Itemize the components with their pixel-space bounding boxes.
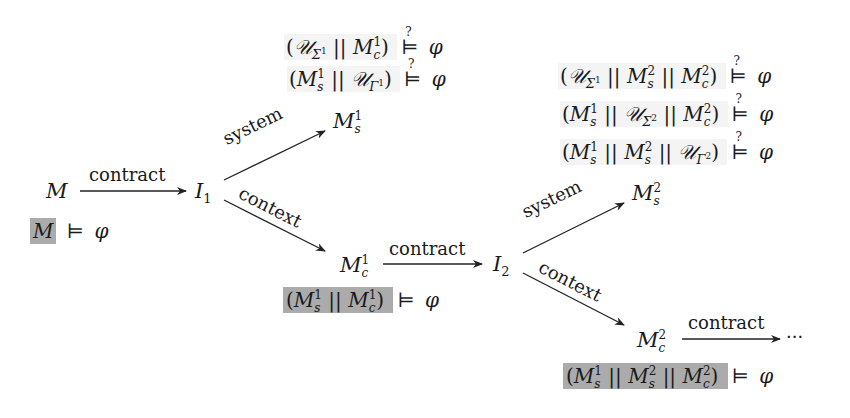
node-M: M [46,181,68,202]
sub-c: c [702,78,710,91]
M: M [294,288,314,312]
node-Mc1-sub: c [362,267,370,280]
node-Ms2-sup: 2 [654,182,662,195]
node-Mc2-base: M [637,328,659,352]
sigma: Σ [586,76,595,91]
f1b-box: (M1s || 𝒰Γ1) [287,66,400,92]
q-models-symbol: ?⊨ [404,69,421,89]
formula-f1b: (M1s || 𝒰Γ1) ?⊨ φ [287,68,446,93]
sup-1: 1 [317,68,325,81]
sup-2: 2 [651,113,657,123]
question-mark: ? [736,93,742,105]
M: M [628,364,648,388]
q-models-symbol: ?⊨ [731,142,748,162]
M: M [683,102,703,126]
node-I1: I1 [195,181,212,205]
rparen: ) [711,102,719,126]
sup-1: 1 [373,36,381,49]
node-Mc1-base: M [340,253,362,277]
parallel-op: || [663,102,676,126]
sup-2: 2 [645,141,653,154]
question-mark: ? [735,131,741,143]
sup-1: 1 [314,289,322,302]
node-Ms2: M2s [632,182,661,207]
phi: φ [759,364,773,388]
node-Ms2-base: M [632,181,654,205]
parallel-op: || [663,364,676,388]
parallel-op: || [604,140,617,164]
sub-s: s [317,81,325,94]
parallel-op: || [607,64,620,88]
highlight-M: M [30,218,56,244]
models: ⊨ [732,366,749,386]
node-I2-sub: 2 [501,264,509,279]
sigma: Σ [312,47,321,62]
node-Mc1: M1c [340,254,369,279]
sup-2: 2 [703,365,711,378]
gamma: Γ [696,152,705,167]
sup-2: 2 [647,65,655,78]
node-Mc2-sup: 2 [659,329,667,342]
parallel-op: || [331,67,344,91]
sup-2: 2 [702,65,710,78]
rparen: ) [709,64,717,88]
q-models-symbol: ?⊨ [732,104,749,124]
sup-1: 1 [595,75,601,85]
sup-1: 1 [594,365,602,378]
sub-s: s [649,378,657,391]
lparen: ( [286,35,294,59]
question-mark: ? [408,58,414,70]
M: M [627,64,647,88]
edge-label-contract-3: contract [688,314,764,332]
lparen: ( [562,102,570,126]
lparen: ( [562,140,570,164]
phi: φ [429,35,443,59]
parallel-op: || [328,288,341,312]
rparen: ) [384,67,392,91]
parallel-op: || [608,364,621,388]
node-Mc1-sup: 1 [362,254,370,267]
node-Ms1-sup: 1 [355,110,363,123]
node-Mc2: M2c [637,329,666,354]
sub-s: s [314,302,322,315]
M: M [624,140,644,164]
q-models-symbol: ?⊨ [401,37,418,57]
M: M [297,67,317,91]
sub-s: s [594,378,602,391]
rparen: ) [711,140,719,164]
formula-f2d: (M1s || M2s || M2c) ⊨ φ [563,365,773,390]
parallel-op: || [659,140,672,164]
node-Ms1: M1s [333,110,362,135]
formula-M-models-phi: M ⊨ φ [30,221,108,241]
lparen: ( [566,364,574,388]
M: M [570,102,590,126]
sigma: Σ [642,114,651,129]
phi: φ [432,67,446,91]
formula-f1c: (M1s || M1c) ⊨ φ [283,289,439,314]
lparen: ( [289,67,297,91]
node-Ms1-sub: s [355,123,363,136]
M: M [682,364,702,388]
q-models-symbol: ?⊨ [730,66,747,86]
sup-1: 1 [369,289,377,302]
sup-1: 1 [590,141,598,154]
question-mark: ? [405,26,411,38]
rparen: ) [376,288,384,312]
edge-label-contract-1: contract [89,166,165,184]
formula-f2c: (M1s || M2s || 𝒰Γ2) ?⊨ φ [560,141,773,166]
universal-model-U: 𝒰 [568,64,586,88]
phi: φ [425,288,439,312]
parallel-op: || [333,35,346,59]
M: M [353,35,373,59]
sub-c: c [369,302,377,315]
question-mark: ? [734,55,740,67]
node-Mc2-sub: c [659,342,667,355]
universal-model-U: 𝒰 [351,67,369,91]
sub-s: s [590,154,598,167]
parallel-op: || [661,64,674,88]
sub-c: c [373,49,381,62]
phi-symbol: φ [94,219,108,243]
parallel-op: || [604,102,617,126]
models-symbol: ⊨ [67,221,84,241]
formula-f2a: (𝒰Σ1 || M2s || M2c) ?⊨ φ [558,65,771,90]
